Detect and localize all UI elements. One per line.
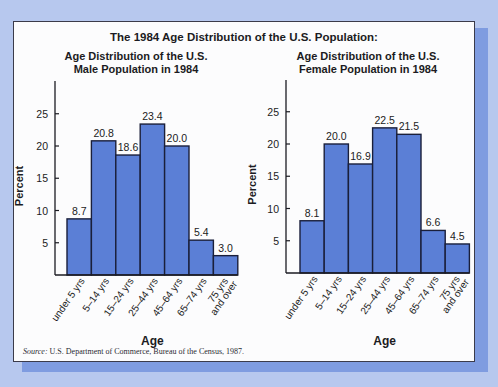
female-y-axis-label: Percent — [246, 164, 258, 205]
female-x-axis-label: Age — [373, 334, 396, 348]
male-bar — [67, 219, 91, 275]
female-value-label: 20.0 — [326, 130, 347, 142]
male-y-tick-label: 15 — [36, 172, 48, 184]
female-bar — [373, 128, 397, 273]
female-bar — [300, 221, 324, 273]
male-y-tick-label: 5 — [42, 237, 48, 249]
male-value-label: 3.0 — [218, 242, 233, 254]
male-value-label: 5.4 — [194, 226, 209, 238]
female-y-tick-label: 15 — [267, 170, 279, 182]
female-category-label: under 5 yrs — [282, 274, 320, 321]
female-value-label: 6.6 — [426, 216, 441, 228]
female-bar — [421, 230, 445, 273]
male-category-label: under 5 yrs — [49, 276, 87, 323]
female-value-label: 16.9 — [350, 150, 371, 162]
male-bar — [165, 146, 189, 275]
male-value-label: 23.4 — [142, 110, 163, 122]
male-value-label: 20.0 — [167, 132, 188, 144]
female-value-label: 8.1 — [305, 207, 320, 219]
male-value-label: 20.8 — [93, 127, 114, 139]
male-bar — [116, 155, 140, 275]
male-x-axis-label: Age — [141, 334, 164, 348]
male-bar — [140, 124, 164, 275]
female-bar — [445, 244, 469, 273]
female-bar — [324, 144, 348, 273]
charts-canvas: 8.7under 5 yrs20.85–14 yrs18.615–24 yrs2… — [0, 0, 498, 387]
female-bar — [397, 134, 421, 273]
female-y-tick-label: 10 — [267, 203, 279, 215]
male-y-tick-label: 10 — [36, 205, 48, 217]
male-y-axis-label: Percent — [13, 165, 25, 206]
male-bar — [213, 256, 237, 275]
male-bar — [91, 141, 115, 275]
female-value-label: 4.5 — [450, 230, 465, 242]
female-value-label: 22.5 — [374, 114, 395, 126]
male-value-label: 8.7 — [72, 205, 87, 217]
female-value-label: 21.5 — [399, 120, 420, 132]
female-y-tick-label: 5 — [273, 235, 279, 247]
male-value-label: 18.6 — [118, 141, 139, 153]
male-y-tick-label: 25 — [36, 108, 48, 120]
female-bar — [348, 164, 372, 273]
female-y-tick-label: 20 — [267, 138, 279, 150]
male-bar — [189, 240, 213, 275]
male-y-tick-label: 20 — [36, 140, 48, 152]
female-y-tick-label: 25 — [267, 106, 279, 118]
